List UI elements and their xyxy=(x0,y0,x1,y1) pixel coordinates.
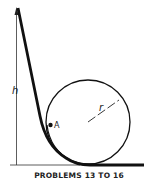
loop-entry-rail xyxy=(47,125,90,165)
radius-line xyxy=(88,100,119,122)
loop-track-diagram: h r A xyxy=(0,0,158,188)
point-a-label: A xyxy=(54,121,60,130)
point-a-marker xyxy=(48,123,52,127)
height-label: h xyxy=(12,85,18,96)
figure-caption: PROBLEMS 13 TO 16 xyxy=(0,171,158,180)
